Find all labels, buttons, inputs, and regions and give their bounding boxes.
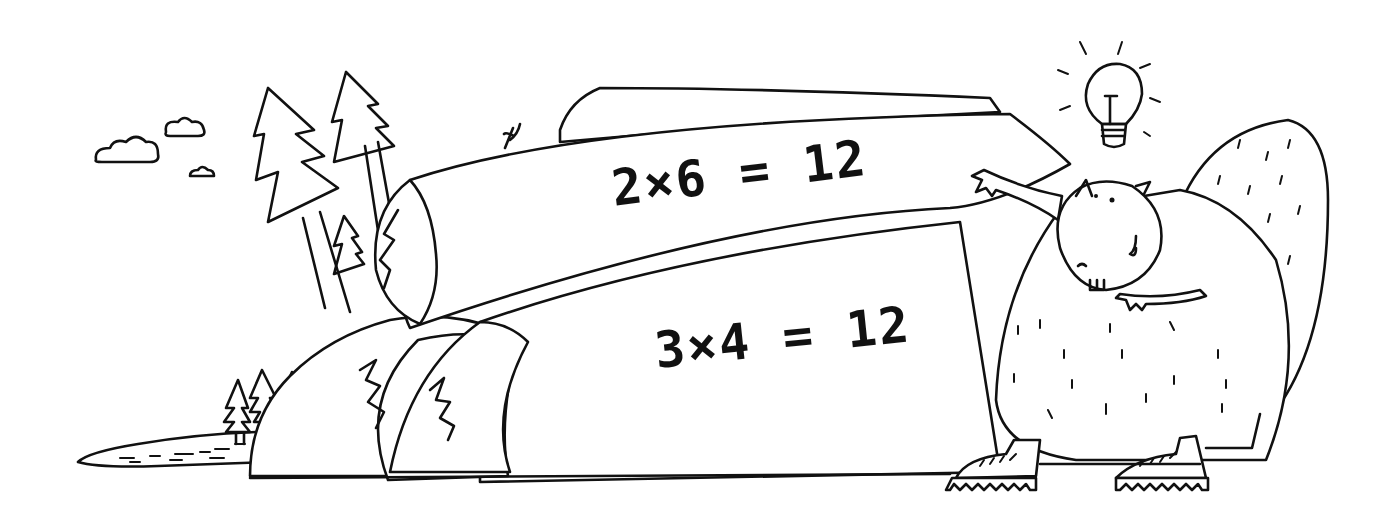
- cloud-icon: [96, 118, 214, 176]
- lake: [78, 432, 268, 467]
- light-bulb-icon: [1058, 42, 1160, 147]
- illustration-canvas: 2×6 = 12 3×4 = 12: [0, 0, 1383, 528]
- scene-drawing: [0, 0, 1383, 528]
- beaver-head: [1058, 180, 1162, 290]
